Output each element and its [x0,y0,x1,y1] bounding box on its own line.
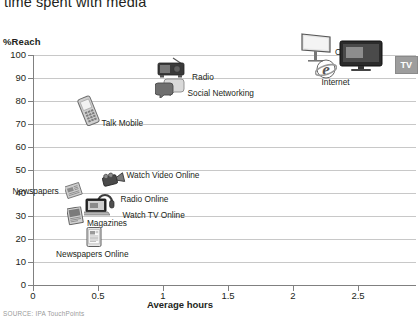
data-point-label: TV [395,56,418,74]
y-axis-label: 20 [0,233,26,244]
x-axis-title-text: Average hours [147,299,213,310]
data-point-label: Talk Mobile [102,118,144,128]
gridline [33,170,416,171]
data-point-label: Radio Online [121,194,169,204]
y-axis-label: 70 [0,118,26,129]
data-point-label: Watch TV Online [123,210,185,220]
y-axis-label: 10 [0,256,26,267]
video-camera-icon [102,172,126,192]
data-point-label: Internet [322,77,350,87]
y-axis-label: 90 [0,72,26,83]
data-point-label: Social Networking [188,88,254,98]
data-point-label: Radio [192,72,214,82]
laptop-icon [84,198,110,220]
y-axis-label: 0 [0,279,26,290]
y-axis-label: 60 [0,141,26,152]
magazine-icon [67,207,85,230]
data-point-label: Watch Video Online [127,170,200,180]
y-axis-title: %Reach [3,36,41,47]
x-axis-title: Average hours [0,299,416,310]
y-axis-label: 50 [0,164,26,175]
gridline [33,78,416,79]
y-axis-label: 100 [0,49,26,60]
chart-title: time spent with media [4,0,146,11]
gridline [33,147,416,148]
mobile-phone-icon [75,95,101,131]
gridline [33,262,416,263]
source-note: SOURCE: IPA TouchPoints [3,310,84,317]
newspaper-stack-icon [65,182,85,204]
tablet-icon [86,227,102,252]
television-icon [339,40,383,76]
tv-label-badge: TV [395,56,418,74]
data-point-label: Newspapers Online [56,249,128,259]
data-point-label: Newspapers [13,186,59,196]
y-axis-line [33,55,34,286]
gridline [33,193,416,194]
y-axis-label: 30 [0,210,26,221]
y-axis-label: 80 [0,95,26,106]
speech-bubbles-icon [155,78,185,102]
x-axis-line [33,285,416,286]
